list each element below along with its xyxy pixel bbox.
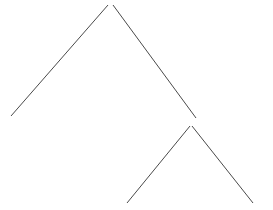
canvas-background: [0, 0, 273, 210]
drawing-canvas: [0, 0, 273, 210]
line-figure: [0, 0, 273, 210]
